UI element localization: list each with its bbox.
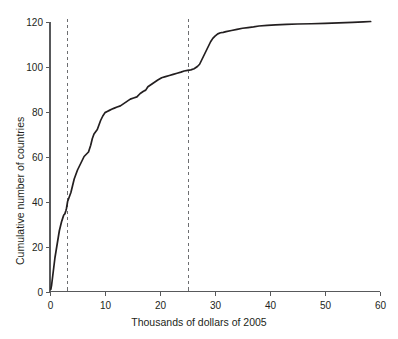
x-tick-label: 40	[265, 301, 276, 311]
x-axis-ticks	[51, 292, 381, 297]
x-tick-label: 50	[320, 301, 331, 311]
y-tick-label: 80	[32, 108, 43, 118]
y-tick-label: 20	[32, 243, 43, 253]
x-tick-label: 10	[100, 301, 111, 311]
x-tick-label: 30	[210, 301, 221, 311]
cumulative-distribution-chart: 020406080100120 0102030405060 Thousands …	[0, 0, 398, 339]
y-tick-label: 0	[37, 288, 43, 298]
data-curves	[51, 22, 371, 290]
y-axis-title: Cumulative number of countries	[14, 117, 26, 265]
y-tick-label: 100	[26, 63, 43, 73]
x-axis-title: Thousands of dollars of 2005	[0, 316, 398, 328]
x-tick-label: 60	[375, 301, 386, 311]
y-tick-label: 60	[32, 153, 43, 163]
x-tick-label: 20	[155, 301, 166, 311]
y-tick-label: 120	[26, 18, 43, 28]
x-tick-label: 0	[48, 301, 54, 311]
y-axis-ticks	[46, 23, 50, 293]
series-line-0	[51, 22, 371, 290]
plot-area	[0, 0, 398, 339]
y-tick-label: 40	[32, 198, 43, 208]
